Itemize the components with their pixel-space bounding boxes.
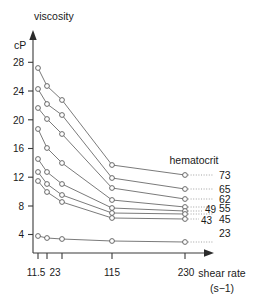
inline-annotations: 49 43	[201, 204, 217, 226]
data-point	[110, 198, 115, 203]
legend-labels: 73 65 62 55 45 23	[219, 169, 231, 239]
data-point	[45, 190, 50, 195]
y-axis-arrowhead	[29, 30, 36, 40]
viscosity-vs-shear-rate-chart: viscosity cP 4 8 12 16 20 24 2	[0, 0, 268, 304]
y-tick-label-4: 4	[18, 229, 24, 240]
chart-figure: viscosity cP 4 8 12 16 20 24 2	[0, 0, 268, 304]
data-point	[36, 66, 41, 71]
data-point	[36, 234, 41, 239]
data-point	[45, 170, 50, 175]
data-point	[60, 200, 65, 205]
data-point	[60, 98, 65, 103]
x-axis-title: shear rate	[198, 267, 245, 279]
data-point	[110, 176, 115, 181]
x-tick-label-11-5: 11.5	[27, 267, 46, 278]
legend-label-23: 23	[219, 227, 231, 239]
data-point	[45, 117, 50, 122]
y-tick-label-20: 20	[13, 115, 25, 126]
data-point	[45, 84, 50, 89]
y-axis-ticks	[28, 62, 33, 234]
x-axis-arrowhead	[204, 249, 214, 256]
data-point	[60, 132, 65, 137]
data-point	[45, 236, 50, 241]
data-point	[110, 211, 115, 216]
x-tick-label-115: 115	[104, 267, 120, 278]
data-point	[60, 193, 65, 198]
data-point	[183, 197, 188, 202]
y-tick-label-12: 12	[13, 172, 25, 183]
data-point	[60, 161, 65, 166]
chart-top-label: viscosity	[34, 10, 74, 22]
data-point	[183, 217, 188, 222]
data-point	[45, 102, 50, 107]
y-tick-label-8: 8	[18, 201, 24, 212]
x-axis-ticks	[38, 253, 185, 259]
y-tick-label-28: 28	[13, 57, 25, 68]
data-point	[183, 240, 188, 245]
data-point	[60, 237, 65, 242]
data-point	[45, 182, 50, 187]
x-tick-label-23: 23	[49, 267, 61, 278]
data-point	[36, 87, 41, 92]
data-point	[36, 127, 41, 132]
annotation-49: 49	[205, 204, 217, 215]
x-tick-label-230: 230	[178, 267, 195, 278]
data-point	[36, 157, 41, 162]
data-point	[45, 146, 50, 151]
legend-title: hematocrit	[169, 154, 218, 166]
data-point	[36, 170, 41, 175]
data-point	[60, 182, 65, 187]
y-axis	[29, 30, 36, 253]
data-point	[60, 113, 65, 118]
y-tick-label-16: 16	[13, 143, 25, 154]
data-point	[110, 186, 115, 191]
y-axis-unit-label: cP	[14, 39, 26, 51]
series-23	[36, 234, 214, 245]
x-axis-tick-labels: 11.5 23 115 230	[27, 267, 195, 278]
data-point	[110, 239, 115, 244]
data-point	[183, 212, 188, 217]
data-point	[183, 173, 188, 178]
data-point	[36, 106, 41, 111]
annotation-43: 43	[201, 215, 213, 226]
data-point	[183, 187, 188, 192]
legend-label-73: 73	[219, 169, 231, 181]
legend-label-45: 45	[219, 213, 231, 225]
data-point	[110, 206, 115, 211]
x-axis-unit: (s−1)	[210, 282, 234, 294]
y-tick-label-24: 24	[13, 86, 25, 97]
data-point	[36, 179, 41, 184]
data-point	[110, 163, 115, 168]
y-axis-tick-labels: 4 8 12 16 20 24 28	[13, 57, 25, 240]
data-point	[110, 216, 115, 221]
x-axis	[33, 249, 214, 256]
